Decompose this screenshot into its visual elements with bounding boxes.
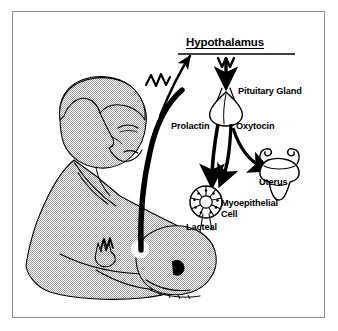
arrow-oxytocin-to-myoepithelial <box>222 124 231 180</box>
lactation-reflex-diagram <box>0 0 338 331</box>
label-hypothalamus: Hypothalamus <box>186 36 264 48</box>
alveolus-lumen <box>200 196 212 208</box>
infant-ear <box>172 260 184 275</box>
label-prolactin: Prolactin <box>171 122 209 132</box>
figure-root: Hypothalamus Pituitary Gland Prolactin O… <box>0 0 338 331</box>
label-myoepithelial-cell-line1: Myoepithelial <box>221 198 278 209</box>
label-oxytocin: Oxytocin <box>236 122 275 132</box>
label-lacteal: Lacteal <box>186 223 217 233</box>
nerve-arrow-to-hypothalamus <box>160 56 190 116</box>
label-uterus: Uterus <box>259 178 288 188</box>
hypothalamus-structure <box>178 54 295 67</box>
arrow-prolactin-to-lacteal <box>212 124 218 180</box>
label-myoepithelial-cell-line2: Cell <box>221 209 278 220</box>
nerve-impulse-zigzag-icon <box>146 74 170 86</box>
label-myoepithelial-cell: Myoepithelial Cell <box>221 198 278 220</box>
uterus-shape <box>260 149 299 200</box>
arrow-oxytocin-to-uterus <box>233 128 264 168</box>
label-pituitary-gland: Pituitary Gland <box>238 87 302 97</box>
